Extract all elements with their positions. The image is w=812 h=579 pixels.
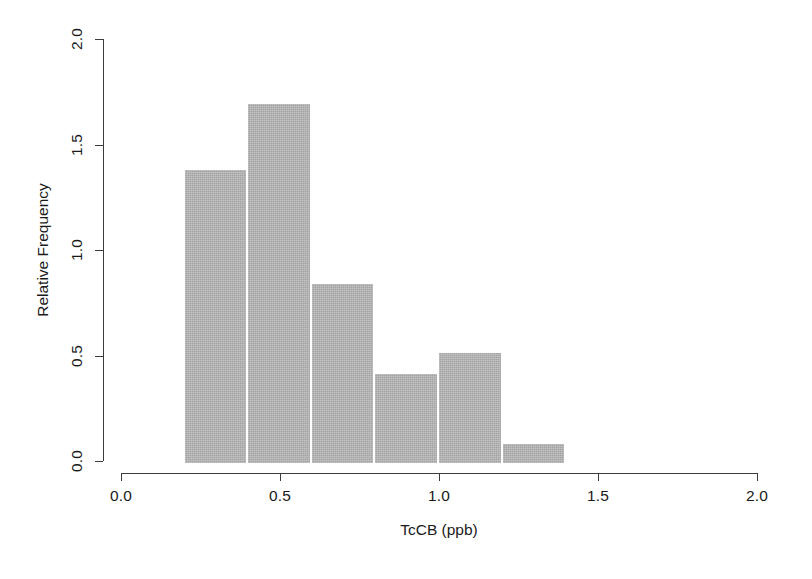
x-axis-tick-label: 0.5 (269, 487, 291, 505)
x-axis-tick-label: 2.0 (746, 487, 768, 505)
histogram-bar (375, 374, 437, 463)
x-axis-tick (439, 473, 440, 481)
histogram-bar (312, 284, 374, 463)
y-axis-tick-label: 0.0 (68, 450, 86, 472)
x-axis-tick (598, 473, 599, 481)
y-axis-tick (95, 39, 103, 40)
y-axis-tick-label: 0.5 (68, 344, 86, 366)
y-axis-tick-label: 2.0 (68, 28, 86, 50)
y-axis-tick-label: 1.0 (68, 239, 86, 261)
histogram-bar (248, 104, 310, 463)
x-axis-tick (757, 473, 758, 481)
y-axis-tick (95, 145, 103, 146)
histogram-bar (439, 353, 501, 463)
x-axis-tick-label: 0.0 (110, 487, 132, 505)
y-axis-tick (95, 461, 103, 462)
histogram-bar (185, 170, 247, 463)
histogram-bar (503, 444, 565, 463)
plot-area: 0.00.51.01.52.0 0.00.51.01.52.0 TcCB (pp… (0, 0, 812, 579)
x-axis-tick-label: 1.5 (587, 487, 609, 505)
y-axis-line (103, 39, 104, 461)
x-axis-title: TcCB (ppb) (400, 521, 478, 539)
y-axis-tick (95, 356, 103, 357)
x-axis-tick (121, 473, 122, 481)
y-axis-title: Relative Frequency (34, 183, 52, 317)
histogram-figure: 0.00.51.01.52.0 0.00.51.01.52.0 TcCB (pp… (0, 0, 812, 579)
y-axis-tick (95, 250, 103, 251)
x-axis-tick-label: 1.0 (428, 487, 450, 505)
y-axis-tick-label: 1.5 (68, 133, 86, 155)
x-axis-tick (280, 473, 281, 481)
